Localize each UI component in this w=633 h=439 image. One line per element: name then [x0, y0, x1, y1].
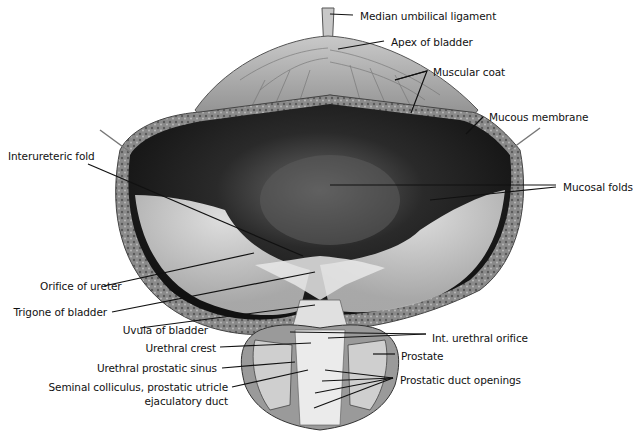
- label-orifice-of-ureter: Orifice of ureter: [40, 280, 122, 292]
- label-ejaculatory-duct: ejaculatory duct: [144, 395, 228, 407]
- label-urethral-crest: Urethral crest: [145, 342, 216, 354]
- bladder-cavity: [128, 104, 511, 320]
- label-apex-of-bladder: Apex of bladder: [391, 36, 473, 48]
- prostate-shape: [241, 325, 398, 430]
- label-prostate: Prostate: [401, 350, 443, 362]
- label-prostatic-duct-openings: Prostatic duct openings: [400, 374, 521, 386]
- label-uvula-of-bladder: Uvula of bladder: [123, 324, 208, 336]
- label-seminal-colliculus: Seminal colliculus, prostatic utricle: [48, 381, 228, 393]
- label-urethral-prostatic-sinus: Urethral prostatic sinus: [97, 362, 217, 374]
- label-int-urethral-orifice: Int. urethral orifice: [432, 332, 528, 344]
- label-trigone-of-bladder: Trigone of bladder: [14, 306, 107, 318]
- label-muscular-coat: Muscular coat: [433, 66, 505, 78]
- label-mucosal-folds: Mucosal folds: [563, 181, 633, 193]
- label-median-umbilical-ligament: Median umbilical ligament: [360, 10, 496, 22]
- bladder-illustration: [0, 0, 633, 439]
- label-interureteric-fold: Interureteric fold: [8, 150, 95, 162]
- label-mucous-membrane: Mucous membrane: [489, 111, 588, 123]
